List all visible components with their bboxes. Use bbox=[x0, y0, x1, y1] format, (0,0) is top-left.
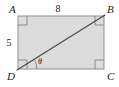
vertex-label-c: C bbox=[107, 70, 115, 82]
side-label-top: 8 bbox=[56, 3, 61, 14]
vertex-label-a: A bbox=[8, 3, 16, 15]
angle-label-theta: θ bbox=[38, 57, 42, 66]
figure-canvas: A B C D 8 5 θ bbox=[0, 0, 119, 87]
side-label-left: 5 bbox=[7, 37, 12, 48]
vertex-label-d: D bbox=[6, 70, 15, 82]
geometry-figure: A B C D 8 5 θ bbox=[0, 0, 119, 87]
vertex-label-b: B bbox=[107, 3, 114, 15]
